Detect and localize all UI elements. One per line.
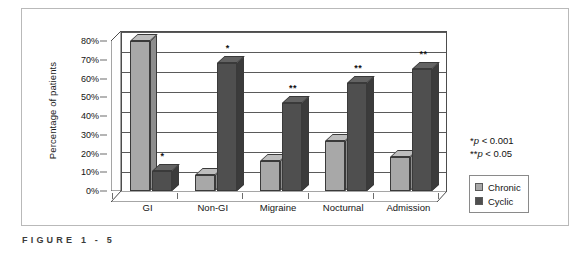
y-axis-tick-label: 40% bbox=[81, 111, 99, 121]
p-value-annotations: *p < 0.001 **p < 0.05 bbox=[470, 134, 514, 160]
legend-label: Chronic bbox=[488, 182, 521, 193]
legend-item: Chronic bbox=[475, 180, 521, 194]
y-axis-tick-mark bbox=[100, 41, 107, 42]
x-axis-tick-mark bbox=[177, 193, 178, 199]
x-axis-tick-label: Non-GI bbox=[197, 202, 228, 213]
y-axis-tick-label: 30% bbox=[81, 130, 99, 140]
p-threshold-2: < 0.05 bbox=[483, 148, 512, 159]
y-axis-tick-mark bbox=[100, 78, 107, 79]
bar-cyclic-admission bbox=[412, 69, 432, 191]
x-axis-tick-label: Admission bbox=[386, 202, 430, 213]
x-axis-tick-mark bbox=[112, 193, 113, 199]
x-axis-tick-label: Nocturnal bbox=[323, 202, 364, 213]
bar-chart: Percentage of patients 0%10%20%30%40%50%… bbox=[22, 9, 570, 227]
plot-floor bbox=[111, 191, 447, 202]
p-value-line-2: **p < 0.05 bbox=[470, 147, 514, 160]
x-axis-tick-mark bbox=[308, 193, 309, 199]
y-axis-tick-mark bbox=[100, 97, 107, 98]
bar-group: ** bbox=[121, 31, 447, 191]
legend-swatch-chronic bbox=[475, 183, 483, 191]
y-axis-title: Percentage of patients bbox=[47, 41, 58, 181]
y-axis-tick-label: 10% bbox=[81, 167, 99, 177]
y-axis-tick-marks bbox=[100, 31, 122, 191]
y-axis-tick-mark bbox=[100, 153, 107, 154]
p-threshold-1: < 0.001 bbox=[479, 135, 514, 146]
y-axis-tick-mark bbox=[100, 191, 107, 192]
x-axis-tick-label: GI bbox=[143, 202, 153, 213]
x-axis-tick-mark bbox=[242, 193, 243, 199]
y-axis-tick-mark bbox=[100, 116, 107, 117]
legend-item: Cyclic bbox=[475, 194, 521, 208]
p-value-line-1: *p < 0.001 bbox=[470, 134, 514, 147]
bar-side-face bbox=[432, 63, 439, 191]
significance-marker: ** bbox=[419, 50, 427, 59]
legend-swatch-cyclic bbox=[475, 197, 483, 205]
chart-legend: ChronicCyclic bbox=[469, 175, 529, 213]
bar-front-face bbox=[390, 157, 410, 191]
y-axis-tick-label: 0% bbox=[86, 186, 99, 196]
figure-caption: FIGURE 1 - 5 bbox=[22, 235, 115, 245]
y-axis-tick-mark bbox=[100, 59, 107, 60]
bar-chronic-admission bbox=[390, 157, 410, 191]
y-axis-tick-label: 50% bbox=[81, 92, 99, 102]
bars-layer: ******** bbox=[121, 31, 447, 191]
y-axis-tick-mark bbox=[100, 134, 107, 135]
y-axis-tick-labels: 0%10%20%30%40%50%60%70%80% bbox=[69, 31, 99, 191]
y-axis-tick-label: 80% bbox=[81, 36, 99, 46]
x-axis-tick-mark bbox=[438, 193, 439, 199]
y-axis-tick-label: 70% bbox=[81, 55, 99, 65]
x-axis-tick-label: Migraine bbox=[260, 202, 296, 213]
y-axis-tick-mark bbox=[100, 172, 107, 173]
x-axis-tick-labels: GINon-GIMigraineNocturnalAdmission bbox=[111, 202, 447, 220]
legend-label: Cyclic bbox=[488, 196, 513, 207]
bar-front-face bbox=[412, 69, 432, 191]
figure-panel: Percentage of patients 0%10%20%30%40%50%… bbox=[21, 8, 569, 226]
x-axis-tick-mark bbox=[373, 193, 374, 199]
y-axis-tick-label: 60% bbox=[81, 74, 99, 84]
y-axis-tick-label: 20% bbox=[81, 149, 99, 159]
